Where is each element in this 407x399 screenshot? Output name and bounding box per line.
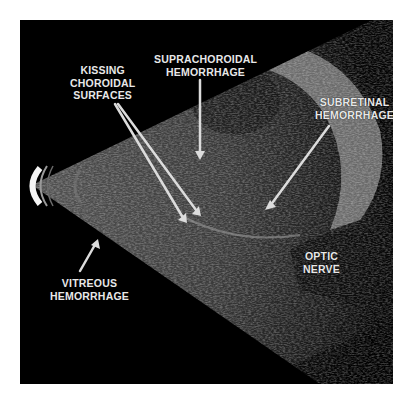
label-line: OPTIC — [303, 250, 340, 263]
label-line: HEMORRHAGE — [315, 109, 393, 122]
subretinal-hemorrhage-label: SUBRETINAL HEMORRHAGE — [315, 96, 393, 121]
label-line: SUBRETINAL — [315, 96, 393, 109]
label-line: KISSING — [70, 64, 135, 77]
ultrasound-image: KISSING CHOROIDAL SURFACES SUPRACHOROIDA… — [20, 20, 393, 384]
label-line: SUPRACHOROIDAL — [154, 53, 257, 66]
label-line: SURFACES — [70, 89, 135, 102]
kissing-choroidal-surfaces-label: KISSING CHOROIDAL SURFACES — [70, 64, 135, 102]
label-line: CHOROIDAL — [70, 77, 135, 90]
label-line: NERVE — [303, 263, 340, 276]
label-line: HEMORRHAGE — [154, 66, 257, 79]
optic-nerve-label: OPTIC NERVE — [303, 250, 340, 275]
label-line: VITREOUS — [50, 277, 129, 290]
suprachoroidal-hemorrhage-label: SUPRACHOROIDAL HEMORRHAGE — [154, 53, 257, 78]
label-line: HEMORRHAGE — [50, 290, 129, 303]
vitreous-hemorrhage-label: VITREOUS HEMORRHAGE — [50, 277, 129, 302]
